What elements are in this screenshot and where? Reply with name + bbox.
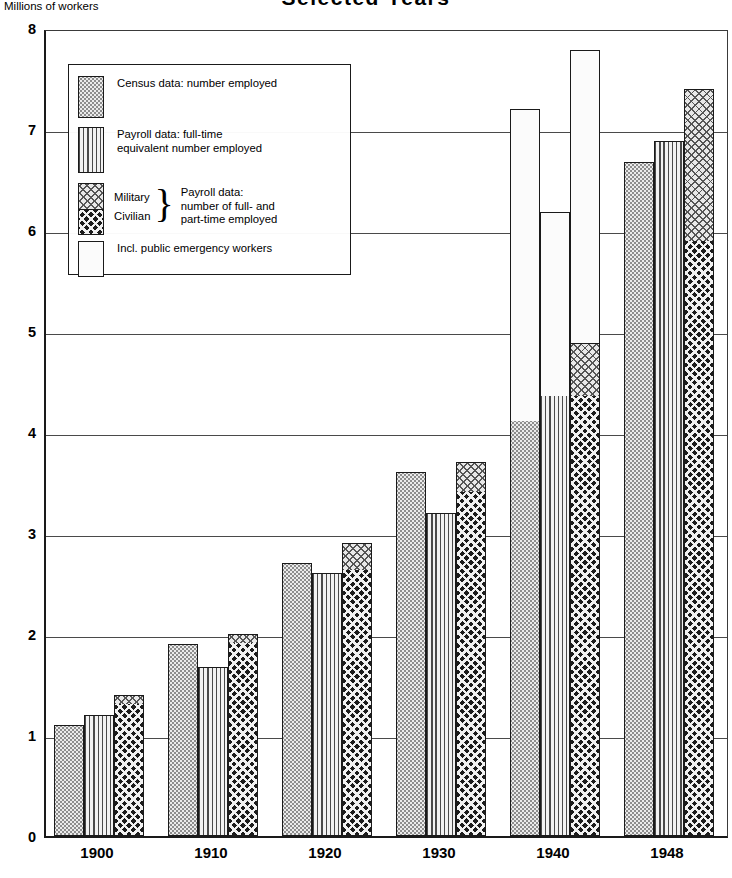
legend-swatch-military-half-icon	[79, 184, 103, 209]
bar-segment-civilian	[229, 643, 257, 835]
bar-segment-military	[685, 89, 713, 242]
legend-label-military: Military	[114, 188, 150, 207]
bar-1940-1	[510, 109, 540, 836]
legend-swatch-military-civilian-icon	[78, 183, 104, 235]
bar-1930-3	[456, 462, 486, 836]
bar-segment-civilian	[115, 704, 143, 835]
legend-label-census: Census data: number employed	[117, 76, 277, 91]
legend-swatch-fte-icon	[78, 127, 104, 173]
bar-1920-3	[342, 543, 372, 836]
bar-segment-census	[625, 162, 653, 835]
legend-item-emergency: Incl. public emergency workers	[78, 241, 272, 277]
bar-segment-military	[229, 634, 257, 643]
bar-segment-fte	[427, 513, 455, 835]
legend-label-fte: Payroll data: full-time equivalent numbe…	[117, 127, 262, 155]
chart-title: Selected Years	[0, 0, 732, 10]
brace-icon: }	[154, 183, 173, 221]
bar-1940-2	[540, 212, 570, 836]
y-axis-tick-label: 2	[6, 627, 36, 643]
bar-group-1940	[502, 31, 616, 836]
bar-segment-military	[571, 343, 599, 396]
y-axis-caption: Millions of workers	[4, 0, 99, 12]
x-axis-tick-label-1948: 1948	[650, 844, 683, 861]
x-axis-tick-label-1910: 1910	[194, 844, 227, 861]
bar-segment-emergency	[571, 50, 599, 343]
bar-segment-fte	[313, 573, 341, 835]
y-axis-tick-label: 0	[6, 829, 36, 845]
bar-segment-fte	[85, 715, 113, 835]
legend-item-military-civilian: Military Civilian } Payroll data: number…	[78, 183, 277, 235]
bar-segment-census	[283, 563, 311, 835]
legend-split-labels: Military Civilian	[114, 183, 150, 226]
y-axis-tick-label: 4	[6, 425, 36, 441]
legend-swatch-emergency-icon	[78, 241, 104, 277]
bar-segment-fte	[199, 667, 227, 835]
legend-swatch-civilian-half-icon	[79, 209, 103, 235]
bar-segment-census	[397, 472, 425, 835]
y-axis-tick-label: 3	[6, 526, 36, 542]
bar-1910-3	[228, 634, 258, 836]
bar-1948-2	[654, 141, 684, 836]
y-axis-tick-label: 1	[6, 728, 36, 744]
bar-1920-1	[282, 563, 312, 836]
bar-segment-census	[55, 725, 83, 835]
legend-label-payroll-desc: Payroll data: number of full- and part-t…	[181, 183, 278, 227]
bar-segment-civilian	[457, 492, 485, 835]
bar-group-1930	[388, 31, 502, 836]
bar-segment-emergency	[511, 109, 539, 421]
bar-segment-census	[511, 421, 539, 835]
bar-1900-1	[54, 725, 84, 836]
bar-segment-emergency	[541, 212, 569, 396]
x-axis-tick-label-1920: 1920	[308, 844, 341, 861]
bar-segment-civilian	[685, 241, 713, 835]
bar-segment-military	[343, 543, 371, 570]
bar-1930-2	[426, 513, 456, 836]
y-axis-tick-label: 5	[6, 324, 36, 340]
legend-item-fte: Payroll data: full-time equivalent numbe…	[78, 127, 262, 173]
bar-1900-3	[114, 695, 144, 836]
bar-1948-3	[684, 89, 714, 836]
legend: Census data: number employed Payroll dat…	[68, 64, 351, 275]
legend-label-emergency: Incl. public emergency workers	[117, 241, 272, 256]
y-axis-tick-label: 8	[6, 21, 36, 37]
bar-group-1948	[616, 31, 730, 836]
y-axis-tick-label: 7	[6, 122, 36, 138]
bar-segment-fte	[655, 141, 683, 835]
bar-segment-civilian	[571, 396, 599, 835]
bar-1920-2	[312, 573, 342, 836]
bar-1948-1	[624, 162, 654, 836]
x-axis-tick-label-1900: 1900	[80, 844, 113, 861]
bar-segment-fte	[541, 396, 569, 835]
legend-label-civilian: Civilian	[114, 207, 150, 226]
x-axis-tick-label-1930: 1930	[422, 844, 455, 861]
bar-1930-1	[396, 472, 426, 836]
y-axis-tick-label: 6	[6, 223, 36, 239]
bar-1900-2	[84, 715, 114, 836]
bar-1940-3	[570, 50, 600, 836]
bar-1910-2	[198, 667, 228, 836]
legend-item-census: Census data: number employed	[78, 76, 277, 118]
bar-segment-census	[169, 644, 197, 835]
x-axis-tick-labels: 190019101920193019401948	[44, 840, 728, 872]
x-axis-tick-label-1940: 1940	[536, 844, 569, 861]
bar-segment-military	[115, 695, 143, 704]
bar-segment-civilian	[343, 570, 371, 835]
legend-swatch-census-icon	[78, 76, 104, 118]
bar-1910-1	[168, 644, 198, 836]
bar-segment-military	[457, 462, 485, 491]
